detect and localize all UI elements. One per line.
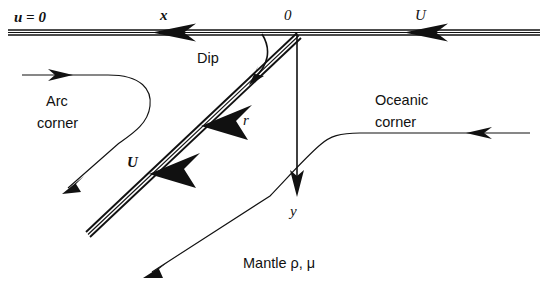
slab-line-lower xyxy=(90,38,301,237)
subducting-slab-double-line xyxy=(86,33,301,237)
arrow-downleft-icon-arc-outflow xyxy=(62,176,84,194)
arc-corner-streamline xyxy=(22,69,150,194)
subduction-corner-flow-diagram: u = 0 x 0 U Dip r U Arc corner Oceanic c… xyxy=(0,0,546,290)
label-oceanic-corner-line1: Oceanic xyxy=(375,92,428,108)
dip-curved-arrow xyxy=(249,34,268,85)
label-u-zero: u = 0 xyxy=(14,9,46,25)
label-arc-corner-line1: Arc xyxy=(46,93,68,109)
surface-plate-double-line xyxy=(8,30,540,35)
arc-corner-streamline-path xyxy=(22,75,150,188)
label-dip: Dip xyxy=(197,50,219,66)
label-u-plate-right: U xyxy=(415,7,427,23)
label-mantle: Mantle ρ, μ xyxy=(243,255,315,271)
label-arc-corner-line2: corner xyxy=(37,115,78,131)
label-y-axis: y xyxy=(288,203,297,219)
oceanic-corner-streamline-path xyxy=(152,133,530,272)
label-r-radial: r xyxy=(243,112,249,128)
label-oceanic-corner-line2: corner xyxy=(375,114,416,130)
slab-line-middle xyxy=(88,36,299,235)
label-origin: 0 xyxy=(284,7,292,23)
label-x-axis: x xyxy=(159,7,168,23)
oceanic-corner-streamline xyxy=(143,127,530,278)
label-u-slab: U xyxy=(127,154,139,170)
